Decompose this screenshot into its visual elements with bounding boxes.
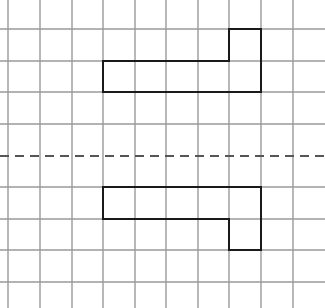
grid-lines	[0, 0, 325, 308]
reflection-grid-diagram	[0, 0, 325, 308]
grid-canvas	[0, 0, 325, 308]
shapes	[103, 29, 261, 250]
